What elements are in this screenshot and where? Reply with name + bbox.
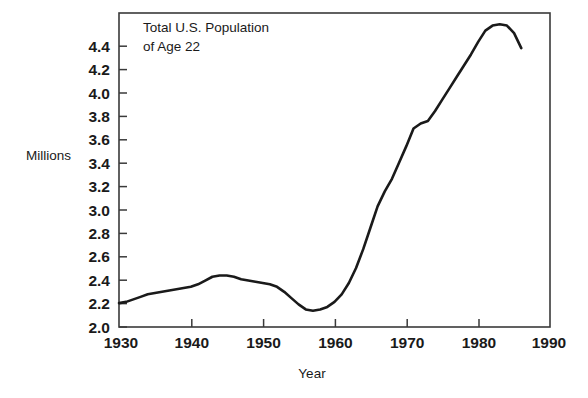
- x-tick-label-1960: 1960: [318, 334, 352, 351]
- y-axis-ticks: [119, 46, 127, 327]
- y-axis-title: Millions: [26, 148, 71, 163]
- chart-title-line-1: Total U.S. Population: [143, 20, 269, 35]
- y-tick-label-2-0: 2.0: [88, 319, 110, 336]
- x-tick-label-1930: 1930: [104, 334, 138, 351]
- x-tick-label-1950: 1950: [246, 334, 280, 351]
- y-tick-label-3-0: 3.0: [88, 202, 110, 219]
- y-tick-label-3-4: 3.4: [88, 155, 110, 172]
- x-axis-ticks: [192, 319, 479, 327]
- y-tick-label-2-4: 2.4: [88, 272, 110, 289]
- y-tick-label-3-2: 3.2: [88, 178, 110, 195]
- y-tick-label-4-4: 4.4: [88, 38, 110, 55]
- chart-canvas: 2.0 2.2 2.4 2.6 2.8 3.0 3.2 3.4 3.6 3.8 …: [0, 0, 588, 398]
- y-tick-label-2-8: 2.8: [88, 225, 110, 242]
- chart-figure: 2.0 2.2 2.4 2.6 2.8 3.0 3.2 3.4 3.6 3.8 …: [0, 0, 588, 398]
- y-tick-label-3-8: 3.8: [88, 108, 110, 125]
- y-tick-label-3-6: 3.6: [88, 131, 110, 148]
- plot-frame: [119, 13, 550, 327]
- y-tick-label-4-0: 4.0: [88, 85, 110, 102]
- y-tick-label-4-2: 4.2: [88, 61, 110, 78]
- x-axis-title: Year: [298, 366, 326, 381]
- y-tick-label-2-6: 2.6: [88, 248, 110, 265]
- x-tick-label-1940: 1940: [175, 334, 209, 351]
- y-tick-label-2-2: 2.2: [88, 295, 110, 312]
- x-tick-label-1980: 1980: [462, 334, 496, 351]
- x-tick-label-1990: 1990: [532, 334, 566, 351]
- data-line-total-us-population-age-22: [119, 24, 521, 310]
- chart-title-line-2: of Age 22: [143, 39, 200, 54]
- x-tick-label-1970: 1970: [390, 334, 424, 351]
